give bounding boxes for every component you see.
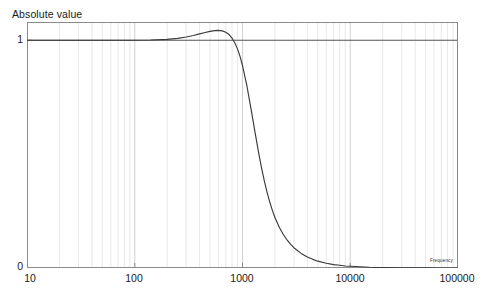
x-axis-tick-label: 100 <box>125 272 143 284</box>
x-axis-tick-label: 100000 <box>439 272 474 284</box>
x-axis-title: Frequency <box>430 258 453 263</box>
x-axis-tick-label: 10 <box>24 272 36 284</box>
plot-canvas <box>27 22 458 268</box>
y-axis-tick-label: 0 <box>3 260 23 272</box>
x-axis-tick-label: 1000 <box>230 272 253 284</box>
chart-title: Absolute value <box>12 8 82 20</box>
plot-area <box>27 22 458 268</box>
x-axis-tick-label: 10000 <box>335 272 364 284</box>
chart-figure: Absolute value 1 0 10 100 1000 10000 100… <box>0 0 482 301</box>
y-axis-tick-label: 1 <box>3 33 23 45</box>
